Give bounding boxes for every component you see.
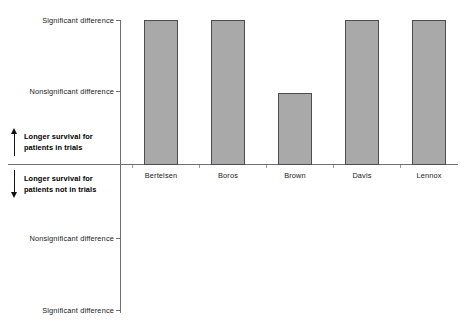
arrow-up-icon xyxy=(10,128,19,156)
category-label-boros: Boros xyxy=(198,172,258,179)
category-label-lennox: Lennox xyxy=(399,172,459,179)
annotation-in-trials-line2: patients in trials xyxy=(24,143,82,152)
bar-brown xyxy=(278,93,312,165)
x-axis-minor-tick xyxy=(400,165,401,168)
annotation-not-in-trials-text: Longer survival for patients not in tria… xyxy=(24,173,96,195)
y-axis-tick-nonsignificant-upper xyxy=(116,91,121,92)
y-axis-label-significant-upper: Significant difference xyxy=(42,17,114,24)
annotation-not-in-trials-line1: Longer survival for xyxy=(24,174,93,183)
category-label-davis: Davis xyxy=(332,172,392,179)
category-label-bertelsen: Bertelsen xyxy=(131,172,191,179)
y-axis-tick-significant-upper xyxy=(116,20,121,21)
annotation-in-trials-text: Longer survival for patients in trials xyxy=(24,131,93,153)
x-axis-minor-tick xyxy=(333,165,334,168)
annotation-longer-survival-in-trials: Longer survival for patients in trials xyxy=(10,128,93,156)
y-axis-label-nonsignificant-upper: Nonsignificant difference xyxy=(29,88,114,95)
x-axis-minor-tick xyxy=(132,165,133,168)
category-label-brown: Brown xyxy=(265,172,325,179)
bar-boros xyxy=(211,20,245,165)
x-axis-minor-tick xyxy=(199,165,200,168)
bar-lennox xyxy=(412,20,446,165)
y-axis-tick-nonsignificant-lower xyxy=(116,238,121,239)
y-axis-tick-significant-lower xyxy=(116,310,121,311)
annotation-in-trials-line1: Longer survival for xyxy=(24,132,93,141)
y-axis-label-nonsignificant-lower: Nonsignificant difference xyxy=(29,235,114,242)
annotation-longer-survival-not-in-trials: Longer survival for patients not in tria… xyxy=(10,170,96,198)
annotation-not-in-trials-line2: patients not in trials xyxy=(24,185,96,194)
y-axis-label-significant-lower: Significant difference xyxy=(42,307,114,314)
bar-davis xyxy=(345,20,379,165)
arrow-down-icon xyxy=(10,170,19,198)
bar-bertelsen xyxy=(144,20,178,165)
y-axis-line xyxy=(120,20,121,313)
survival-comparison-chart: Significant difference Nonsignificant di… xyxy=(0,0,467,327)
x-axis-minor-tick xyxy=(266,165,267,168)
